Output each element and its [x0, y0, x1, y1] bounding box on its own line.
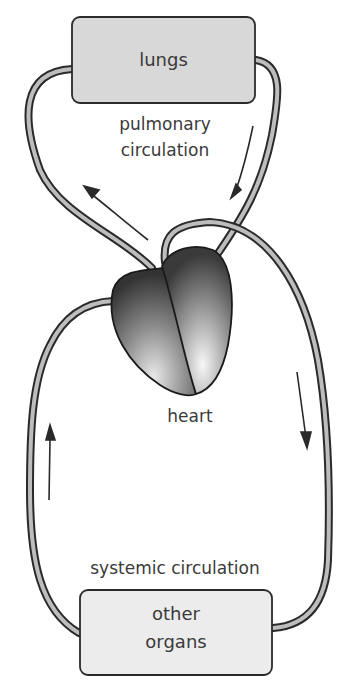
- lungs-label: lungs: [72, 49, 255, 71]
- systemic-circulation-label: systemic circulation: [70, 557, 280, 579]
- other-organs-line1: other: [80, 603, 272, 625]
- arrow-pulmonary-up-icon: [84, 186, 148, 240]
- circulation-diagram: [0, 0, 346, 694]
- pulmonary-circulation-label: pulmonary circulation: [100, 113, 230, 161]
- pulmonary-label-line2: circulation: [100, 139, 230, 161]
- other-organs-label: other organs: [80, 603, 272, 653]
- pulmonary-label-line1: pulmonary: [100, 113, 230, 135]
- arrow-systemic-down-icon: [297, 372, 311, 448]
- arrow-systemic-up-icon: [46, 425, 55, 500]
- other-organs-line2: organs: [80, 631, 272, 653]
- arrow-pulmonary-down-icon: [231, 126, 253, 198]
- heart-icon: [111, 247, 231, 395]
- heart-label: heart: [155, 405, 225, 427]
